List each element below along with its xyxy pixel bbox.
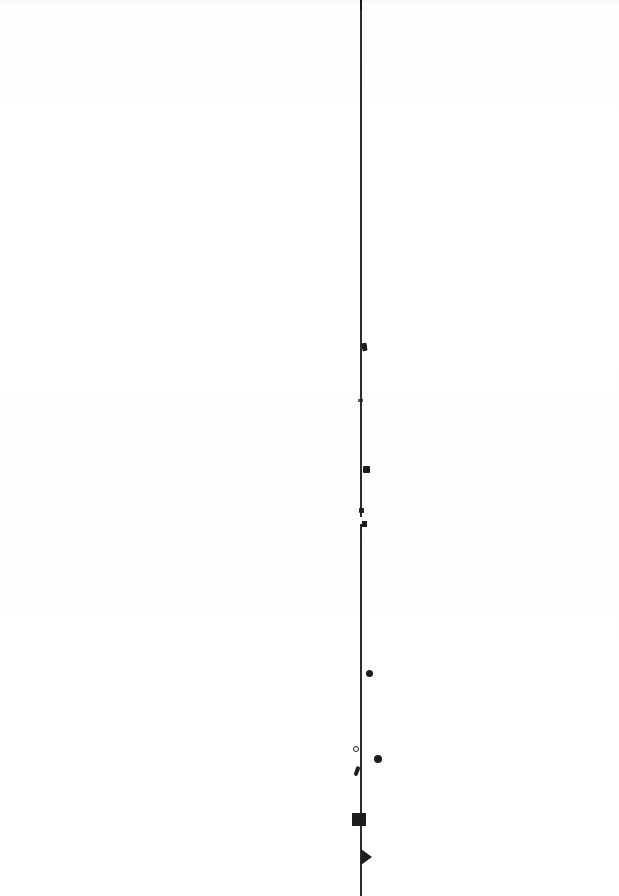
mark-dot-right bbox=[374, 755, 382, 763]
mark-block bbox=[352, 813, 366, 826]
mark-ring bbox=[353, 746, 359, 752]
scanned-page bbox=[0, 0, 619, 896]
mark-arrowhead bbox=[361, 849, 372, 865]
mark-square-upper bbox=[363, 466, 370, 473]
mark-square-gap-b bbox=[362, 521, 367, 527]
mark-tick bbox=[358, 399, 363, 402]
mark-dot-mid bbox=[366, 670, 373, 677]
vertical-rule-top-cap bbox=[360, 0, 362, 10]
paper-background bbox=[0, 0, 619, 896]
scan-edge-shadow bbox=[0, 0, 619, 3]
vertical-rule-upper-segment bbox=[360, 0, 362, 517]
mark-blob bbox=[361, 343, 367, 352]
mark-square-gap-a bbox=[359, 508, 364, 513]
vertical-rule-lower-segment bbox=[360, 524, 362, 896]
